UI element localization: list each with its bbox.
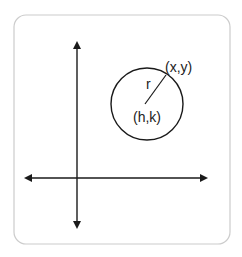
point-label: (x,y) [165,59,192,75]
circle-diagram: (x,y) r (h,k) [0,0,242,257]
radius-label: r [146,76,151,92]
center-label: (h,k) [133,109,161,125]
